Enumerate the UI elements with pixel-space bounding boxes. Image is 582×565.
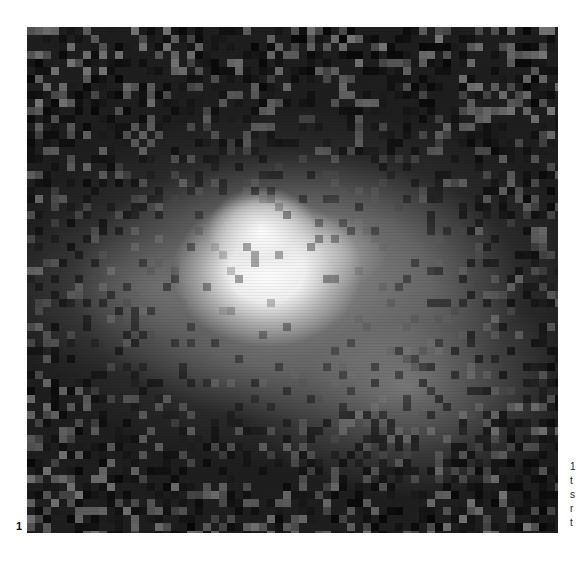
caption-fragment: 1 t s r t — [570, 460, 582, 530]
scanlines — [27, 27, 558, 533]
caption-line: s — [570, 488, 582, 502]
caption-line: 1 — [570, 460, 582, 474]
figure-number: 1 — [16, 520, 22, 532]
caption-line: r — [570, 502, 582, 516]
astronomical-image — [27, 27, 558, 533]
caption-line: t — [570, 474, 582, 488]
caption-line: t — [570, 516, 582, 530]
